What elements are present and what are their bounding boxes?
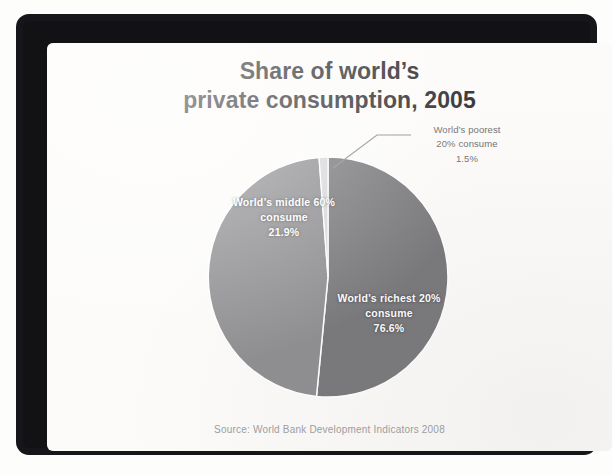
source-note: Source: World Bank Development Indicator…	[47, 424, 612, 435]
leader-line-path	[333, 135, 411, 168]
slice-label-richest-percent: 76.6%	[323, 321, 455, 336]
pie-slice-middle	[208, 157, 328, 396]
slice-label-middle-percent: 21.9%	[225, 225, 343, 240]
slide-frame: Share of world’s private consumption, 20…	[16, 14, 597, 455]
slice-callout-poorest-percent: 1.5%	[403, 152, 531, 166]
callout-leader-line	[315, 121, 415, 171]
slice-label-middle-line-1: World’s	[233, 196, 272, 208]
slice-callout-poorest-line-2: 20% consume	[403, 137, 531, 151]
slice-label-richest: World’s richest 20% consume 76.6%	[323, 291, 455, 337]
slice-callout-poorest: World’s poorest 20% consume 1.5%	[403, 123, 531, 166]
photographed-slide-page: Share of world’s private consumption, 20…	[0, 0, 613, 475]
slice-callout-poorest-line-1: World’s poorest	[403, 123, 531, 137]
slide-canvas: Share of world’s private consumption, 20…	[47, 43, 612, 451]
pie-chart-svg	[202, 151, 454, 403]
slice-label-middle: World’s middle 60% consume 21.9%	[225, 195, 343, 241]
slice-label-middle-line-2: middle 60%	[275, 196, 335, 208]
slice-label-middle-line-3: consume	[260, 211, 308, 223]
pie-slice-richest	[317, 157, 448, 397]
slice-label-richest-line-1: World’s richest	[337, 292, 415, 304]
pie-chart: World’s middle 60% consume 21.9% World’s…	[47, 43, 612, 451]
